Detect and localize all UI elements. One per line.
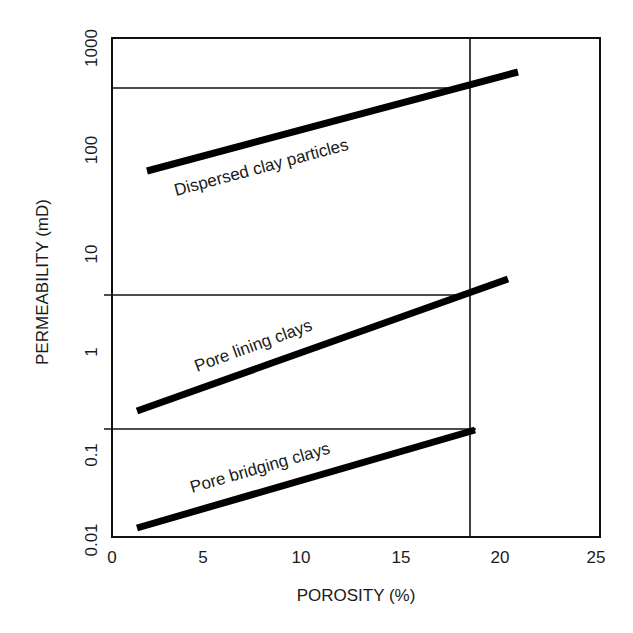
series-label-pore-bridging: Pore bridging clays [188,439,332,497]
y-tick-label: 10 [82,245,101,264]
y-tick-label: 1 [82,347,101,356]
x-tick-label: 25 [587,548,606,567]
x-tick-label: 10 [292,548,311,567]
x-tick-label: 5 [198,548,207,567]
y-tick-label: 100 [82,136,101,164]
y-tick-label: 0.01 [82,523,101,556]
y-axis-label: PERMEABILITY (mD) [33,199,52,365]
x-tick-label: 20 [491,548,510,567]
y-tick-label: 0.1 [82,443,101,467]
x-tick-label: 15 [392,548,411,567]
y-tick-label: 1000 [82,29,101,67]
x-axis-label: POROSITY (%) [297,586,416,605]
chart: Dispersed clay particles Pore lining cla… [0,0,633,633]
series-line-pore-lining [137,279,508,411]
x-tick-label: 0 [107,548,116,567]
series-label-dispersed: Dispersed clay particles [172,135,350,200]
